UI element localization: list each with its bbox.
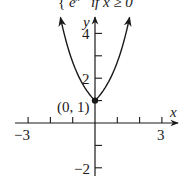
tick-label-neg2: −2 [74, 161, 90, 176]
formula-brace: { [58, 0, 65, 10]
tick-label-2: 2 [82, 71, 90, 87]
tick-label-3: 3 [157, 127, 165, 143]
formula-sup: x [76, 0, 80, 3]
point-label: (0, 1) [57, 99, 90, 116]
formula-expr: e [69, 0, 76, 10]
tick-label-4: 4 [82, 26, 90, 42]
plot-area: x y −3 3 4 2 −2 (0, 1) [0, 0, 181, 176]
formula-fragment: { ex if x ≥ 0 [58, 0, 133, 11]
point-0-1-dot [92, 97, 98, 103]
formula-condition: if x ≥ 0 [91, 0, 133, 10]
tick-label-neg3: −3 [14, 127, 30, 143]
x-axis-label: x [169, 104, 177, 120]
graph-figure: { ex if x ≥ 0 x y −3 3 4 2 −2 (0, 1) [0, 0, 181, 176]
